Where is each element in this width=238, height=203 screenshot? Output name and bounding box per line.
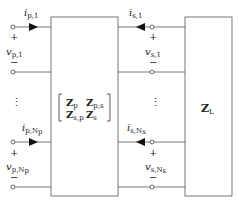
ellipsis: ⋮ bbox=[150, 96, 161, 109]
plus-sign: + bbox=[149, 31, 157, 42]
primary-port-N-wires bbox=[15, 142, 51, 187]
current-label-isN: is,Ns bbox=[127, 122, 146, 136]
ellipsis: ⋮ bbox=[11, 96, 22, 109]
minus-sign: − bbox=[149, 172, 157, 183]
current-label-ipN: ip,Np bbox=[22, 122, 43, 136]
minus-sign: − bbox=[10, 57, 18, 68]
current-arrow-icon bbox=[29, 138, 38, 146]
current-arrow-icon bbox=[29, 23, 38, 31]
circuit-diagram: ip,1 + vp,1 − ⋮ ip,Np + vp,Np − is,1 + v… bbox=[0, 0, 238, 203]
current-arrow-icon bbox=[136, 23, 145, 31]
current-label-ip1: ip,1 bbox=[24, 7, 38, 20]
minus-sign: − bbox=[149, 57, 157, 68]
plus-sign: + bbox=[149, 147, 157, 158]
minus-sign: − bbox=[10, 172, 18, 183]
current-arrow-icon bbox=[136, 138, 145, 146]
load-ZL-label: ZL bbox=[201, 102, 214, 116]
current-label-is1: is,1 bbox=[129, 7, 142, 20]
terminal-icons bbox=[11, 25, 154, 189]
plus-sign: + bbox=[10, 147, 18, 158]
plus-sign: + bbox=[10, 31, 18, 42]
network-box bbox=[51, 17, 118, 196]
matrix-Zsp: Zs,p bbox=[66, 109, 84, 122]
matrix-Zs: Zs bbox=[86, 109, 97, 122]
primary-port-1-wires bbox=[15, 27, 51, 72]
